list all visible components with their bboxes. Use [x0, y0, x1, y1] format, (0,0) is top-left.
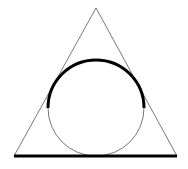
upper-arc-highlight [48, 60, 144, 108]
diagram-canvas [0, 0, 188, 169]
triangle-outline [14, 8, 177, 156]
diagram-svg [0, 0, 188, 169]
